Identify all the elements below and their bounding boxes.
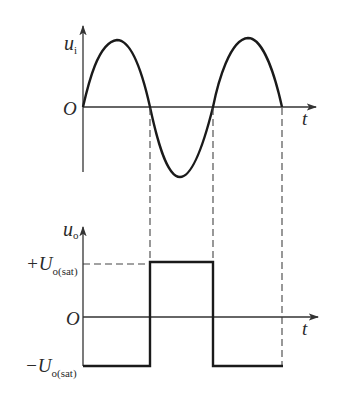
- output-plot: uo O t +Uo(sat) −Uo(sat): [25, 218, 318, 380]
- neg-sat-label: −Uo(sat): [25, 355, 77, 380]
- input-x-label: t: [302, 108, 308, 129]
- output-x-label: t: [302, 318, 308, 339]
- output-y-label: uo: [63, 218, 79, 241]
- input-origin-label: O: [63, 98, 77, 119]
- output-origin-label: O: [66, 308, 80, 329]
- input-plot: ui O t: [63, 26, 316, 177]
- pos-sat-label: +Uo(sat): [26, 253, 78, 278]
- output-square-wave: [83, 262, 283, 366]
- waveform-diagram: ui O t uo O t +Uo(sat) −Uo(sat): [0, 0, 342, 405]
- transition-guides: [83, 108, 282, 366]
- input-y-label: ui: [64, 32, 77, 56]
